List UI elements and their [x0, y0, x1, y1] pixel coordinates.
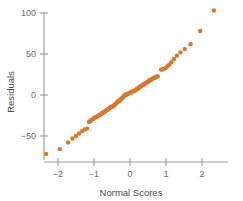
data-point	[85, 126, 89, 130]
y-axis-title: Residuals	[5, 71, 16, 113]
data-point	[44, 152, 48, 156]
x-axis: −2−1012	[44, 158, 228, 179]
x-tick-label: −1	[89, 169, 99, 179]
y-axis: −50050100	[21, 8, 48, 160]
scatter-plot-canvas: −50050100 −2−1012 Normal Scores Residual…	[0, 0, 243, 201]
x-tick-label: 0	[127, 169, 132, 179]
x-tick-label: 1	[163, 169, 168, 179]
x-axis-ticks: −2−1012	[53, 158, 205, 179]
data-point	[58, 147, 62, 151]
data-point	[212, 8, 216, 12]
y-tick-label: −50	[21, 131, 36, 141]
x-axis-title: Normal Scores	[100, 187, 163, 198]
x-tick-label: −2	[53, 169, 63, 179]
data-point	[198, 29, 202, 33]
data-point	[178, 50, 182, 54]
data-point	[188, 42, 192, 46]
data-point	[183, 47, 187, 51]
data-point	[175, 53, 179, 57]
data-point	[66, 140, 70, 144]
y-tick-label: 0	[31, 90, 36, 100]
data-points-layer	[44, 8, 216, 156]
data-point	[70, 136, 74, 140]
y-tick-label: 50	[26, 49, 36, 59]
data-point	[156, 74, 160, 78]
qq-plot-figure: −50050100 −2−1012 Normal Scores Residual…	[0, 0, 243, 201]
y-tick-label: 100	[21, 8, 36, 18]
x-tick-label: 2	[199, 169, 204, 179]
